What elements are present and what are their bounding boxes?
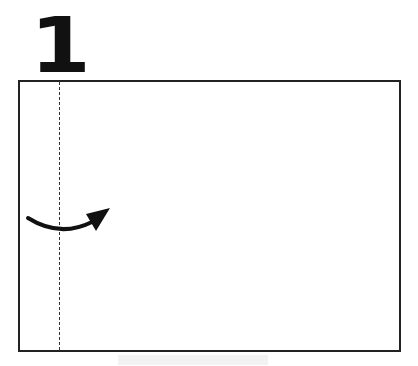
shadow-decoration	[118, 355, 268, 365]
curved-fold-arrow-icon	[0, 0, 418, 366]
